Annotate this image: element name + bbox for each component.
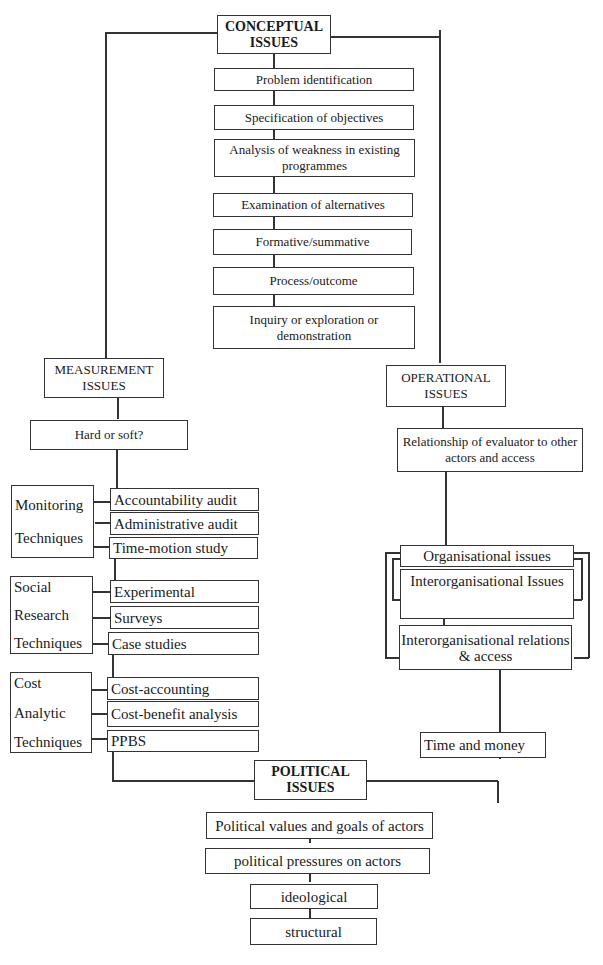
problem-identification-box: Problem identification bbox=[214, 68, 414, 91]
box-label: PPBS bbox=[111, 733, 146, 749]
box-label: Interorganisational Issues bbox=[410, 573, 563, 589]
box-label: Problem identification bbox=[256, 72, 373, 88]
connector bbox=[93, 617, 111, 619]
connector bbox=[105, 32, 218, 34]
box-label: Political values and goals of actors bbox=[215, 818, 424, 834]
interorganisational-issues-box: Interorganisational Issues bbox=[400, 569, 574, 619]
group-label-line: Techniques bbox=[14, 734, 88, 750]
connector bbox=[112, 780, 258, 782]
cost-accounting-box: Cost-accounting bbox=[107, 677, 259, 700]
group-label-line: Research bbox=[14, 607, 89, 623]
box-label: Specification of objectives bbox=[245, 110, 384, 126]
connector bbox=[91, 738, 108, 740]
group-label-line: Social bbox=[14, 579, 89, 595]
group-label-line: Monitoring bbox=[15, 497, 90, 513]
relationship-evaluator-box: Relationship of evaluator to other actor… bbox=[397, 428, 583, 472]
box-label: ideological bbox=[281, 889, 348, 905]
connector bbox=[91, 713, 108, 715]
ideological-box: ideological bbox=[250, 884, 378, 909]
surveys-box: Surveys bbox=[110, 606, 259, 629]
group-label-line: Analytic bbox=[14, 705, 88, 721]
measurement-issues-header: MEASUREMENT ISSUES bbox=[44, 358, 164, 398]
connector bbox=[497, 781, 499, 803]
box-label: Experimental bbox=[114, 584, 195, 600]
connector bbox=[112, 750, 114, 782]
box-label: Time and money bbox=[424, 737, 525, 753]
box-label: Relationship of evaluator to other actor… bbox=[402, 434, 578, 466]
case-studies-box: Case studies bbox=[108, 632, 259, 655]
organisational-issues-box: Organisational issues bbox=[400, 545, 574, 567]
experimental-box: Experimental bbox=[110, 580, 259, 603]
connector bbox=[392, 558, 394, 600]
time-and-money-box: Time and money bbox=[420, 732, 546, 758]
specification-objectives-box: Specification of objectives bbox=[214, 105, 414, 130]
hard-or-soft-box: Hard or soft? bbox=[30, 420, 188, 450]
box-label: Surveys bbox=[114, 610, 162, 626]
political-pressures-box: political pressures on actors bbox=[205, 848, 430, 874]
connector bbox=[93, 501, 111, 503]
connector bbox=[95, 522, 111, 524]
header-line: OPERATIONAL bbox=[401, 370, 491, 386]
analysis-weakness-box: Analysis of weakness in existing program… bbox=[214, 139, 415, 177]
connector bbox=[574, 657, 589, 659]
box-label: structural bbox=[285, 924, 342, 940]
connector bbox=[574, 552, 589, 554]
formative-summative-box: Formative/summative bbox=[213, 229, 412, 255]
box-label: Examination of alternatives bbox=[241, 197, 385, 213]
header-line: ISSUES bbox=[286, 780, 334, 796]
box-label: Inquiry or exploration or demonstration bbox=[234, 312, 394, 344]
connector bbox=[366, 780, 498, 782]
connector bbox=[574, 599, 582, 601]
group-label-line: Cost bbox=[14, 675, 88, 691]
group-label-line: Techniques bbox=[15, 530, 90, 546]
conceptual-issues-header: CONCEPTUAL ISSUES bbox=[217, 15, 331, 54]
header-line: CONCEPTUAL bbox=[225, 19, 323, 35]
ppbs-box: PPBS bbox=[107, 730, 259, 752]
header-line: ISSUES bbox=[424, 386, 467, 402]
box-label: Cost-accounting bbox=[111, 681, 209, 697]
connector bbox=[93, 591, 111, 593]
accountability-audit-box: Accountability audit bbox=[110, 488, 259, 511]
connector bbox=[445, 470, 447, 545]
time-motion-study-box: Time-motion study bbox=[109, 537, 258, 559]
connector bbox=[574, 558, 582, 560]
inquiry-exploration-box: Inquiry or exploration or demonstration bbox=[213, 306, 415, 349]
connector bbox=[439, 30, 441, 363]
interorganisational-relations-box: Interorganisational relations & access bbox=[399, 625, 572, 670]
header-line: MEASUREMENT bbox=[55, 362, 154, 378]
group-label-line: Techniques bbox=[14, 635, 89, 651]
box-label: Interorganisational relations & access bbox=[400, 632, 571, 664]
connector bbox=[588, 552, 590, 658]
connector bbox=[330, 36, 440, 38]
monitoring-techniques-group: Monitoring Techniques bbox=[11, 485, 94, 558]
box-label: Case studies bbox=[112, 636, 187, 652]
connector bbox=[581, 558, 583, 600]
social-research-techniques-group: Social Research Techniques bbox=[10, 576, 93, 654]
box-label: Cost-benefit analysis bbox=[111, 706, 237, 722]
header-line: ISSUES bbox=[250, 35, 298, 51]
connector bbox=[442, 405, 444, 430]
box-label: Analysis of weakness in existing program… bbox=[223, 142, 406, 174]
box-label: Organisational issues bbox=[423, 548, 551, 564]
connector bbox=[116, 449, 118, 489]
box-label: political pressures on actors bbox=[234, 853, 401, 869]
box-label: Time-motion study bbox=[113, 540, 228, 556]
header-line: POLITICAL bbox=[271, 764, 350, 780]
box-label: Hard or soft? bbox=[75, 427, 144, 443]
box-label: Accountability audit bbox=[114, 492, 237, 508]
cost-analytic-techniques-group: Cost Analytic Techniques bbox=[10, 672, 92, 753]
connector bbox=[385, 552, 387, 658]
box-label: Administrative audit bbox=[114, 516, 238, 532]
box-label: Formative/summative bbox=[255, 234, 369, 250]
connector bbox=[91, 689, 108, 691]
process-outcome-box: Process/outcome bbox=[213, 267, 414, 295]
examination-alternatives-box: Examination of alternatives bbox=[213, 193, 413, 217]
box-label: Process/outcome bbox=[269, 273, 357, 289]
connector bbox=[385, 552, 401, 554]
political-issues-header: POLITICAL ISSUES bbox=[254, 760, 367, 800]
political-values-box: Political values and goals of actors bbox=[206, 812, 433, 839]
connector bbox=[105, 32, 107, 360]
operational-issues-header: OPERATIONAL ISSUES bbox=[386, 365, 506, 407]
structural-box: structural bbox=[250, 918, 377, 945]
header-line: ISSUES bbox=[82, 378, 125, 394]
